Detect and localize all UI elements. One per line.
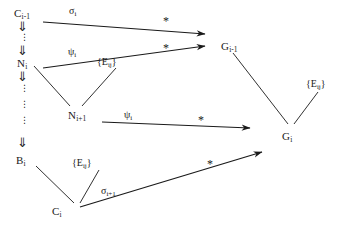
set-label-e-ij-right: {Eij}: [306, 79, 326, 91]
node-n-i-base: N: [17, 57, 25, 69]
connector-layer: [34, 53, 318, 203]
node-g-i-minus-1: Gi-1: [221, 41, 238, 54]
set-label-e-ij-right-close: }: [321, 78, 326, 89]
vertical-dots-3: ⋮: [20, 100, 29, 109]
node-n-i-plus-1: Ni+1: [68, 110, 86, 123]
node-n-i-plus-1-subscript: i+1: [76, 114, 86, 123]
set-label-e-ij-right-open: {E: [306, 78, 317, 89]
star-label-top: *: [163, 15, 169, 27]
connector-n-i-to-n-i-plus-1: [34, 66, 70, 106]
commutative-diagram-figure: Ci-1NiNi+1BiCiGi-1Gi {Eij}{Eij}{Eij} σiψ…: [0, 0, 351, 240]
edge-label-sigma-i-subscript: i: [74, 10, 76, 18]
connector-g-i-to-e: [294, 92, 318, 124]
node-g-i: Gi: [282, 131, 292, 144]
connector-n-i-plus-1-to-e: [82, 68, 116, 106]
edge-label-sigma-i-plus-1-subscript: i+1: [106, 190, 115, 198]
star-label-second: *: [163, 42, 169, 54]
node-n-i-plus-1-base: N: [68, 109, 76, 121]
arrow-sigma-i: [43, 22, 205, 34]
star-label-bottom: *: [207, 158, 213, 170]
node-c-i-base: C: [52, 205, 60, 217]
node-g-i-minus-1-base: G: [221, 40, 229, 52]
vertical-dots-4: ⋮: [20, 116, 29, 125]
edge-label-sigma-i: σi: [69, 6, 76, 18]
node-c-i-subscript: i: [60, 210, 62, 219]
node-b-i-subscript: i: [24, 159, 26, 168]
node-b-i-base: B: [16, 154, 24, 166]
node-g-i-subscript: i: [290, 135, 292, 144]
edge-label-psi-i-top: ψi: [68, 47, 76, 59]
diagram-canvas: [0, 0, 351, 240]
set-label-e-ij-middle-open: {E: [97, 56, 108, 67]
set-label-e-ij-middle: {Eij}: [97, 57, 117, 69]
set-label-e-ij-bottom: {Eij}: [72, 158, 92, 170]
arrow-sigma-i-p1: [80, 152, 262, 207]
edge-label-psi-i-top-subscript: i: [74, 51, 76, 59]
set-label-e-ij-middle-close: }: [112, 56, 117, 67]
vertical-dots-2: ⋮: [20, 84, 29, 93]
node-b-i: Bi: [16, 155, 26, 168]
vertical-dots-1: ⋮: [20, 33, 29, 42]
node-g-i-minus-1-subscript: i-1: [229, 45, 237, 54]
node-c-i: Ci: [52, 206, 62, 219]
node-g-i-base: G: [282, 130, 290, 142]
set-label-e-ij-bottom-open: {E: [72, 157, 83, 168]
double-down-arrow-4: ⇓: [17, 136, 28, 149]
connector-g-i-minus-1-to-g-i: [233, 53, 288, 124]
edge-label-psi-i-middle: ψi: [124, 110, 132, 122]
double-down-arrow-3: ⇓: [17, 70, 28, 83]
edge-label-psi-i-middle-subscript: i: [130, 114, 132, 122]
connector-b-i-to-c-i: [36, 166, 74, 203]
connector-c-i-to-e: [80, 170, 99, 203]
double-down-arrow-2: ⇓: [17, 44, 28, 57]
edge-label-sigma-i-plus-1: σi+1: [101, 186, 116, 198]
node-c-i-minus-1-base: C: [14, 7, 22, 19]
star-label-third: *: [198, 114, 204, 126]
arrow-psi-i-middle: [102, 122, 250, 128]
set-label-e-ij-bottom-close: }: [87, 157, 92, 168]
